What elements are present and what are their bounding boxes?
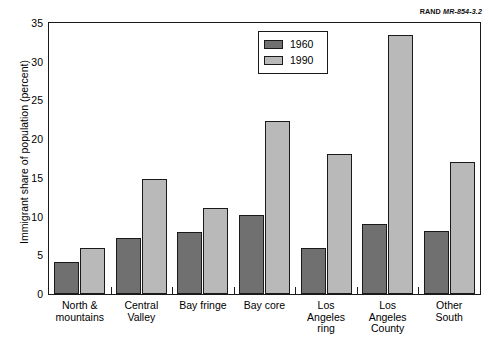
x-axis-category-label: Los Angeles ring: [295, 300, 357, 335]
legend-swatch-1960: [264, 40, 283, 49]
x-axis-category-label: Other South: [418, 300, 480, 323]
bar-1960-3: [177, 232, 202, 294]
bar-1960-5: [301, 248, 326, 294]
legend-swatch-1990: [264, 56, 283, 65]
bar-1990-4: [265, 121, 290, 294]
bar-1990-1: [80, 248, 105, 294]
x-axis-tick-mark: [111, 287, 112, 294]
y-axis-tick-label: 20: [16, 133, 43, 145]
chart-legend: 1960 1990: [258, 31, 328, 74]
bar-1960-1: [54, 262, 79, 294]
x-axis-category-label: Bay core: [234, 300, 296, 312]
y-axis-tick-label: 30: [16, 56, 43, 68]
bar-1960-7: [424, 231, 449, 294]
x-axis-category-label: North & mountains: [49, 300, 111, 323]
bar-1960-2: [116, 238, 141, 294]
bar-1990-7: [450, 162, 475, 294]
x-axis-category-label: Los Angeles County: [357, 300, 419, 335]
rand-report-id: MR-854-3.2: [443, 7, 482, 16]
y-axis-tick-label: 35: [16, 17, 43, 29]
legend-label-1960: 1960: [290, 39, 313, 50]
bar-1990-5: [327, 154, 352, 294]
x-axis-tick-mark: [295, 287, 296, 294]
x-axis-tick-mark: [234, 287, 235, 294]
legend-entry-1990: 1990: [264, 52, 322, 68]
x-axis-tick-mark: [418, 287, 419, 294]
bar-1960-4: [239, 215, 264, 294]
y-axis-tick-label: 5: [16, 249, 43, 261]
y-axis-tick-label: 10: [16, 211, 43, 223]
rand-logo-text: RAND: [420, 7, 441, 16]
bar-chart-figure: RAND MR-854-3.2 Immigrant share of popul…: [0, 0, 489, 341]
bar-1990-3: [203, 208, 228, 294]
x-axis-tick-mark: [357, 287, 358, 294]
rand-source-tag: RAND MR-854-3.2: [420, 7, 482, 16]
y-axis-tick-label: 15: [16, 172, 43, 184]
x-axis-category-label: Central Valley: [111, 300, 173, 323]
y-axis-tick-label: 0: [16, 288, 43, 300]
y-axis-tick-label: 25: [16, 94, 43, 106]
bar-1990-6: [388, 35, 413, 294]
bar-1990-2: [142, 179, 167, 294]
bar-1960-6: [362, 224, 387, 294]
legend-label-1990: 1990: [290, 55, 313, 66]
x-axis-category-label: Bay fringe: [172, 300, 234, 312]
legend-entry-1960: 1960: [264, 36, 322, 52]
x-axis-tick-mark: [172, 287, 173, 294]
